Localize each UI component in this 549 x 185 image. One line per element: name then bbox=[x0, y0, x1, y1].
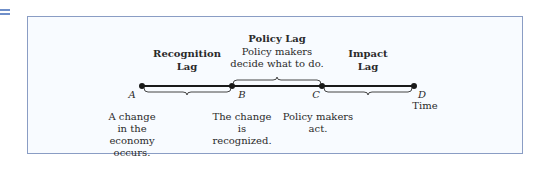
policy-lag-title: Policy Lag bbox=[248, 33, 305, 45]
point-c-label: C bbox=[312, 89, 320, 101]
recognition-lag-title: Lag bbox=[177, 61, 198, 73]
policy-lag-desc: decide what to do. bbox=[230, 58, 323, 70]
point-a-desc: A change bbox=[108, 111, 155, 123]
point-c-desc: Policy makers bbox=[283, 111, 354, 123]
policy-lag-brace bbox=[233, 77, 321, 84]
time-axis-label: Time bbox=[412, 100, 437, 112]
timeline-graphic bbox=[0, 0, 549, 185]
point-a-desc: in the bbox=[117, 123, 146, 135]
point-b-desc: The change bbox=[213, 111, 272, 123]
point-a-desc: economy bbox=[109, 135, 154, 147]
point-a-desc: occurs. bbox=[114, 147, 151, 159]
impact-lag-title: Lag bbox=[358, 61, 379, 73]
point-c-desc: act. bbox=[309, 123, 328, 135]
point-b-desc: is bbox=[238, 123, 246, 135]
point-b-desc: recognized. bbox=[212, 135, 271, 147]
point-b-label: B bbox=[238, 89, 245, 101]
policy-lag-desc: Policy makers bbox=[242, 46, 313, 58]
point-b-marker bbox=[229, 83, 235, 89]
point-a-label: A bbox=[128, 89, 135, 101]
recognition-lag-title: Recognition bbox=[153, 48, 221, 60]
impact-lag-brace bbox=[324, 88, 412, 95]
recognition-lag-brace bbox=[144, 88, 231, 95]
impact-lag-title: Impact bbox=[348, 48, 387, 60]
